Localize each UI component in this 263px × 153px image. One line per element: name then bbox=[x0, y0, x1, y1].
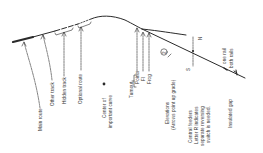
other-track-line bbox=[33, 31, 55, 37]
curve-track-line bbox=[91, 16, 142, 29]
label-elevations-1: Elevations bbox=[165, 102, 170, 124]
label-one-rail: one rail bbox=[222, 48, 227, 64]
elevation-arrow bbox=[168, 54, 171, 57]
main-route-leader bbox=[24, 42, 40, 108]
label-frog: Frog bbox=[147, 74, 152, 84]
label-north: N bbox=[198, 37, 203, 40]
label-feeders-1: Central feeders bbox=[188, 110, 193, 143]
label-elevation-marker: 2 bbox=[162, 51, 167, 54]
label-feeders-4: switch is needed. bbox=[206, 106, 211, 143]
label-south: S bbox=[186, 68, 191, 71]
curve-center-dot bbox=[103, 83, 106, 86]
optional-bracket bbox=[78, 22, 91, 28]
label-other-track: Other track bbox=[50, 82, 55, 106]
label-fl: Fl bbox=[141, 77, 146, 81]
label-feeders-3: separate reversing bbox=[200, 106, 205, 146]
label-hidden-track: Hidden track bbox=[62, 77, 67, 104]
label-insulated-gap: Insulated gap bbox=[228, 99, 233, 128]
label-elevations-2: (Arrows point up grade) bbox=[171, 80, 176, 130]
label-center-curve-1: Center of bbox=[102, 98, 107, 118]
feeder-dot bbox=[192, 50, 194, 52]
optional-route-line bbox=[78, 19, 91, 24]
label-points: Points bbox=[135, 71, 140, 84]
label-main-route: Main route bbox=[38, 108, 43, 131]
main-route-line bbox=[13, 37, 33, 42]
other-track-leader bbox=[43, 35, 52, 80]
label-both-rails: both rails bbox=[229, 48, 234, 68]
insulated-gap-one-rail bbox=[224, 68, 227, 70]
hidden-track-line bbox=[55, 24, 78, 31]
label-optional-route: Optional route bbox=[78, 74, 83, 104]
label-turnout: Turnout bbox=[129, 82, 134, 98]
label-center-curve-2: important curve bbox=[108, 95, 113, 128]
label-feeders-2: Letter R indicates bbox=[194, 106, 199, 144]
